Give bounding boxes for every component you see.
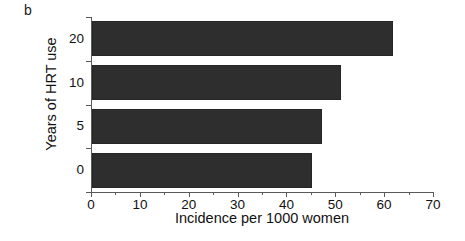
bar <box>92 65 341 100</box>
y-tick-mark <box>86 17 91 18</box>
bar <box>92 109 322 144</box>
x-tick-mark-minor <box>311 192 312 195</box>
y-tick-label: 10 <box>69 76 84 90</box>
x-tick-label: 40 <box>279 197 294 212</box>
y-tick-mark <box>86 148 91 149</box>
x-tick-mark-minor <box>262 192 263 195</box>
y-tick-label: 5 <box>76 119 84 133</box>
x-tick-label: 0 <box>87 197 95 212</box>
plot-area: 201050 <box>91 17 433 192</box>
y-tick-label: 0 <box>76 163 84 177</box>
panel-label: b <box>24 3 32 17</box>
x-tick-label: 30 <box>230 197 245 212</box>
bar <box>92 21 393 56</box>
bar <box>92 153 312 188</box>
x-tick-label: 50 <box>328 197 343 212</box>
x-tick-mark-minor <box>409 192 410 195</box>
x-tick-mark-minor <box>360 192 361 195</box>
y-tick-label: 20 <box>69 32 84 46</box>
x-tick-label: 20 <box>181 197 196 212</box>
y-tick-mark <box>86 61 91 62</box>
x-tick-mark-minor <box>164 192 165 195</box>
y-tick-mark <box>86 105 91 106</box>
x-tick-mark-minor <box>213 192 214 195</box>
x-tick-label: 60 <box>377 197 392 212</box>
figure-panel-b: b Years of HRT use Incidence per 1000 wo… <box>0 0 465 241</box>
x-tick-label: 70 <box>425 197 440 212</box>
x-axis-title: Incidence per 1000 women <box>91 210 433 226</box>
y-axis-title: Years of HRT use <box>43 0 59 189</box>
x-tick-mark-minor <box>115 192 116 195</box>
x-tick-label: 10 <box>132 197 147 212</box>
